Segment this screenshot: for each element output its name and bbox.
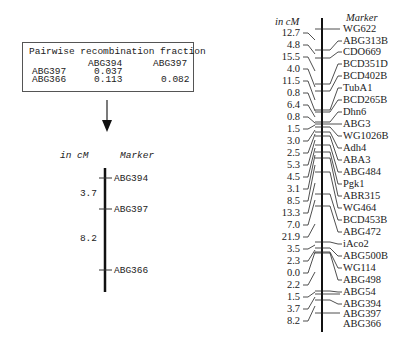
marker-label: TubA1 [343, 82, 372, 93]
small-linkage-map [99, 168, 112, 292]
marker-label: ABA3 [343, 154, 370, 165]
marker-label: Pgk1 [343, 178, 365, 189]
small-map-distance: 3.7 [73, 188, 97, 199]
distance-label: 2.2 [270, 279, 300, 290]
marker-label: iAco2 [343, 238, 369, 249]
distance-label: 4.5 [270, 171, 300, 182]
marker-label: WG622 [343, 23, 376, 34]
distance-label: 0.8 [270, 87, 300, 98]
distance-label: 4.8 [270, 39, 300, 50]
distance-label: 12.7 [270, 27, 300, 38]
distance-label: 8.5 [270, 195, 300, 206]
marker-label: ABG366 [343, 318, 381, 329]
distance-label: 3.1 [270, 183, 300, 194]
distance-label: 8.2 [270, 315, 300, 326]
distance-label: 0.0 [270, 267, 300, 278]
marker-label: BCD351D [343, 58, 388, 69]
distance-label: 7.0 [270, 219, 300, 230]
distance-label: 3.5 [270, 243, 300, 254]
marker-label: BCD265B [343, 94, 387, 105]
marker-label: Dhn6 [343, 106, 366, 117]
large-map-marker-header: Marker [346, 12, 378, 23]
marker-label: WG464 [343, 202, 376, 213]
marker-label: ABG498 [343, 274, 381, 285]
distance-label: 5.3 [270, 159, 300, 170]
marker-label: ABG472 [343, 226, 381, 237]
marker-label: WG1026B [343, 130, 389, 141]
arrow-down-icon [102, 100, 112, 132]
marker-label: ABG3 [343, 118, 370, 129]
marker-label: ABG54 [343, 286, 376, 297]
distance-label: 0.8 [270, 111, 300, 122]
distance-label: 21.9 [270, 231, 300, 242]
small-map-cm-header: in cM [60, 150, 89, 161]
small-map-marker: ABG394 [114, 173, 148, 184]
marker-label: ABG484 [343, 166, 381, 177]
marker-label: Adh4 [343, 142, 366, 153]
distance-label: 11.5 [270, 75, 300, 86]
distance-label: 3.0 [270, 135, 300, 146]
distance-label: 1.5 [270, 291, 300, 302]
marker-label: ABG500B [343, 250, 388, 261]
large-map-cm-header: in cM [275, 16, 299, 27]
small-map-marker-header: Marker [120, 150, 154, 161]
marker-label: WG114 [343, 262, 376, 273]
distance-label: 1.5 [270, 123, 300, 134]
small-map-marker: ABG366 [114, 265, 148, 276]
marker-label: CDO669 [343, 46, 381, 57]
distance-label: 2.5 [270, 147, 300, 158]
distance-label: 4.0 [270, 63, 300, 74]
distance-label: 15.5 [270, 51, 300, 62]
distance-label: 3.7 [270, 303, 300, 314]
distance-label: 13.3 [270, 207, 300, 218]
distance-label: 6.4 [270, 99, 300, 110]
large-linkage-map [303, 18, 342, 332]
marker-label: BCD453B [343, 214, 387, 225]
marker-label: ABG313B [343, 35, 388, 46]
marker-label: BCD402B [343, 70, 387, 81]
marker-label: ABR315 [343, 190, 380, 201]
small-map-marker: ABG397 [114, 204, 148, 215]
distance-label: 2.3 [270, 255, 300, 266]
small-map-distance: 8.2 [73, 233, 97, 244]
